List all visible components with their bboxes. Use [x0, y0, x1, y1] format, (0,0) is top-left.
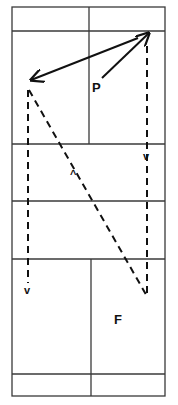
solid-arrows	[31, 33, 149, 80]
direction-markers: v ^ v	[24, 150, 150, 296]
direction-marker-right-down: v	[143, 150, 150, 162]
direction-marker-diagonal-up: ^	[70, 168, 77, 180]
dashed-paths	[28, 46, 148, 298]
player-label-p: P	[92, 80, 101, 95]
arrow-p-to-top-right	[102, 33, 149, 78]
direction-marker-left-down: v	[24, 284, 31, 296]
player-labels: P F	[92, 80, 122, 327]
badminton-court-diagram: v ^ v P F	[0, 0, 178, 405]
player-label-f: F	[114, 312, 122, 327]
court-lines	[12, 7, 165, 396]
